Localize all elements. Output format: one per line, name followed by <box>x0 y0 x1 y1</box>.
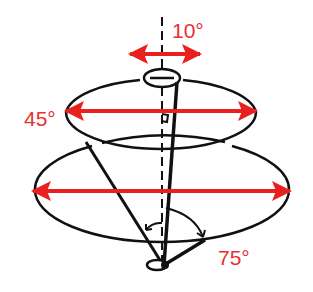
range-of-motion-diagram: 10° 45° 75° <box>0 0 313 292</box>
label-10-degrees: 10° <box>172 19 204 42</box>
left-diagonal-rod <box>86 142 163 265</box>
label-75-degrees: 75° <box>218 246 250 269</box>
right-diagonal-rod <box>164 240 205 265</box>
label-45-degrees: 45° <box>24 107 56 130</box>
